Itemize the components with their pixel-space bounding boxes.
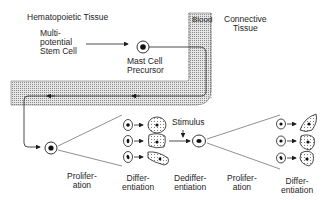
stimulus-label: Stimulus: [172, 118, 205, 127]
stage-label-proliferation-1: Prolifer- ation: [67, 172, 97, 190]
stem-cell-label: Multi- potential Stem Cell: [40, 29, 77, 56]
dedifferentiated-cell: [193, 115, 281, 169]
proliferation-cell-1: [45, 115, 122, 166]
stage-label-dedifferentiation: Dediffer- entiation: [174, 174, 206, 192]
stage-label-differentiation-1: Differ- entiation: [122, 174, 154, 192]
differentiation-group-2: [277, 114, 317, 166]
differentiation-group-1: [124, 117, 169, 165]
region-hematopoietic-label: Hematopoietic Tissue: [27, 13, 108, 22]
precursor-cell: [137, 41, 149, 53]
blood-vessel: [11, 13, 211, 105]
stage-label-differentiation-2: Differ- entiation: [281, 177, 313, 195]
precursor-label: Mast Cell Precursor: [127, 57, 164, 75]
stage-label-proliferation-2: Prolifer- ation: [227, 174, 257, 192]
region-blood-label: Blood: [192, 15, 212, 24]
stimulus-arrow: [169, 130, 190, 141]
region-connective-label: Connective Tissue: [224, 15, 267, 33]
